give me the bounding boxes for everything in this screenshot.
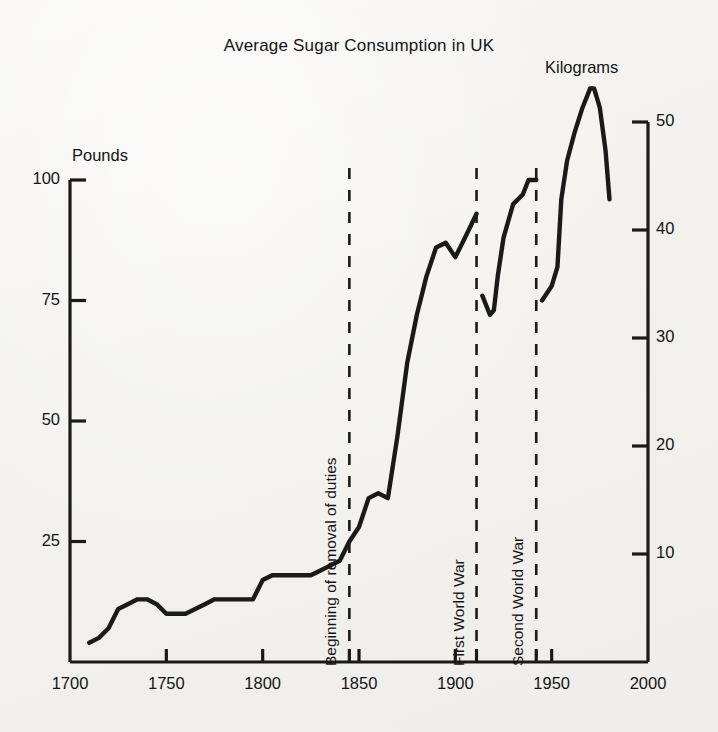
plot-area xyxy=(0,0,718,732)
y-tick-right-30: 30 xyxy=(656,327,712,346)
series-line-1 xyxy=(89,214,476,643)
x-tick-2000: 2000 xyxy=(618,674,678,693)
chart-figure: Average Sugar Consumption in UK Pounds K… xyxy=(0,0,718,732)
y-tick-right-40: 40 xyxy=(656,219,712,238)
x-tick-1900: 1900 xyxy=(425,674,485,693)
annotation-label-1: Beginning of removal of duties xyxy=(322,457,340,666)
x-tick-1850: 1850 xyxy=(329,674,389,693)
y-tick-right-20: 20 xyxy=(656,435,712,454)
series-line-2 xyxy=(482,180,536,315)
x-tick-1750: 1750 xyxy=(136,674,196,693)
y-tick-right-10: 10 xyxy=(656,543,712,562)
x-tick-1700: 1700 xyxy=(40,674,100,693)
x-tick-1950: 1950 xyxy=(522,674,582,693)
x-tick-1800: 1800 xyxy=(233,674,293,693)
annotation-label-2: First World War xyxy=(450,559,468,666)
y-tick-right-50: 50 xyxy=(656,111,712,130)
y-tick-left-100: 100 xyxy=(4,169,60,188)
series-line-3 xyxy=(542,88,609,300)
y-tick-left-75: 75 xyxy=(4,290,60,309)
y-tick-left-50: 50 xyxy=(4,410,60,429)
y-tick-left-25: 25 xyxy=(4,531,60,550)
annotation-label-3: Second World War xyxy=(509,537,527,666)
